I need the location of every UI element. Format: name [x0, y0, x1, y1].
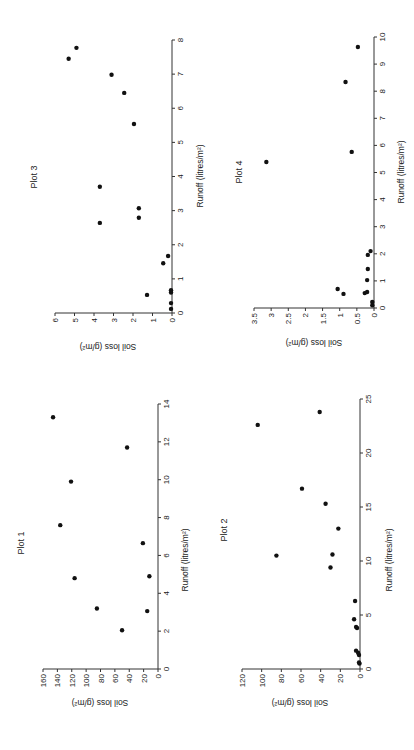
data-point — [98, 221, 102, 225]
y-tick-label: 40 — [317, 673, 326, 682]
plot-title: Plot 1 — [16, 531, 26, 554]
y-axis-title: Soil loss (g/m²) — [72, 698, 129, 708]
y-tick-label: 2 — [129, 317, 138, 322]
data-point — [66, 57, 70, 61]
x-tick-label: 10 — [378, 32, 387, 41]
data-point — [137, 206, 141, 210]
y-tick-label: 4 — [90, 317, 99, 322]
x-tick-label: 12 — [162, 437, 171, 446]
plot-1: 02468101214020406080100120140160Plot 1Ru… — [16, 399, 190, 708]
y-tick-label: 160 — [39, 673, 48, 687]
x-tick-label: 0 — [364, 666, 373, 671]
y-tick-label: 3 — [267, 312, 276, 317]
data-point — [353, 599, 357, 603]
y-tick-label: 100 — [82, 673, 91, 687]
x-tick-label: 2 — [176, 242, 185, 247]
plot-title: Plot 2 — [219, 518, 229, 541]
data-point — [58, 523, 62, 527]
data-point — [169, 307, 173, 311]
data-point — [98, 185, 102, 189]
x-tick-label: 6 — [378, 143, 387, 148]
data-point — [274, 553, 278, 557]
plot-3: 0123456780123456Plot 3Runoff (litres/m²)… — [29, 37, 205, 352]
y-tick-label: 1 — [149, 317, 158, 322]
scatter-figure: 02468101214020406080100120140160Plot 1Ru… — [0, 0, 414, 750]
data-point — [147, 574, 151, 578]
y-tick-label: 100 — [258, 673, 267, 687]
data-point — [365, 278, 369, 282]
y-tick-label: 3 — [110, 317, 119, 322]
y-axis-title: Soil loss (g/m²) — [80, 342, 137, 352]
data-point — [352, 617, 356, 621]
data-point — [161, 261, 165, 265]
x-tick-label: 6 — [176, 105, 185, 110]
y-tick-label: 6 — [51, 317, 60, 322]
data-point — [336, 526, 340, 530]
data-point — [169, 288, 173, 292]
data-point — [328, 565, 332, 569]
x-tick-label: 2 — [162, 628, 171, 633]
data-point — [357, 660, 361, 664]
y-tick-label: 1.5 — [319, 312, 328, 324]
x-tick-label: 25 — [364, 394, 373, 403]
x-tick-label: 9 — [378, 61, 387, 66]
data-point — [365, 290, 369, 294]
x-tick-label: 3 — [176, 208, 185, 213]
x-tick-label: 20 — [364, 448, 373, 457]
data-point — [166, 254, 170, 258]
x-tick-label: 5 — [364, 612, 373, 617]
y-tick-label: 60 — [297, 673, 306, 682]
data-point — [300, 486, 304, 490]
y-axis-title: Soil loss (g/m²) — [272, 698, 329, 708]
y-tick-label: 1 — [336, 312, 345, 317]
data-point — [341, 292, 345, 296]
y-tick-label: 80 — [97, 673, 106, 682]
data-point — [125, 445, 129, 449]
data-point — [343, 80, 347, 84]
x-tick-label: 14 — [162, 399, 171, 408]
y-tick-label: 0 — [154, 673, 163, 678]
x-tick-label: 2 — [378, 251, 387, 256]
data-point — [335, 287, 339, 291]
data-point — [330, 552, 334, 556]
data-point — [366, 253, 370, 257]
x-tick-label: 7 — [176, 71, 185, 76]
x-axis-title: Runoff (litres/m²) — [180, 528, 190, 591]
y-tick-label: 0 — [370, 312, 379, 317]
x-tick-label: 4 — [162, 591, 171, 596]
y-axis-title: Soil loss (g/m²) — [286, 338, 343, 348]
data-point — [120, 628, 124, 632]
x-tick-label: 5 — [176, 140, 185, 145]
y-tick-label: 0 — [168, 317, 177, 322]
data-point — [350, 150, 354, 154]
y-tick-label: 20 — [336, 673, 345, 682]
data-point — [51, 415, 55, 419]
x-tick-label: 6 — [162, 553, 171, 558]
y-tick-label: 2.5 — [284, 312, 293, 324]
y-tick-label: 2 — [301, 312, 310, 317]
data-point — [72, 576, 76, 580]
y-tick-label: 0.5 — [353, 312, 362, 324]
plot-title: Plot 3 — [29, 165, 39, 188]
data-point — [137, 216, 141, 220]
plot-title: Plot 4 — [234, 160, 244, 183]
data-point — [169, 301, 173, 305]
data-point — [69, 479, 73, 483]
y-tick-label: 120 — [238, 673, 247, 687]
data-point — [132, 122, 136, 126]
x-tick-label: 4 — [176, 174, 185, 179]
data-point — [317, 410, 321, 414]
y-tick-label: 0 — [356, 673, 365, 678]
x-tick-label: 5 — [378, 170, 387, 175]
x-tick-label: 4 — [378, 197, 387, 202]
x-tick-label: 8 — [378, 88, 387, 93]
y-tick-label: 20 — [140, 673, 149, 682]
data-point — [141, 541, 145, 545]
x-axis-title: Runoff (litres/m²) — [195, 144, 205, 207]
data-point — [122, 91, 126, 95]
data-point — [354, 648, 358, 652]
data-point — [145, 609, 149, 613]
x-tick-label: 7 — [378, 116, 387, 121]
y-tick-label: 5 — [71, 317, 80, 322]
data-point — [356, 45, 360, 49]
